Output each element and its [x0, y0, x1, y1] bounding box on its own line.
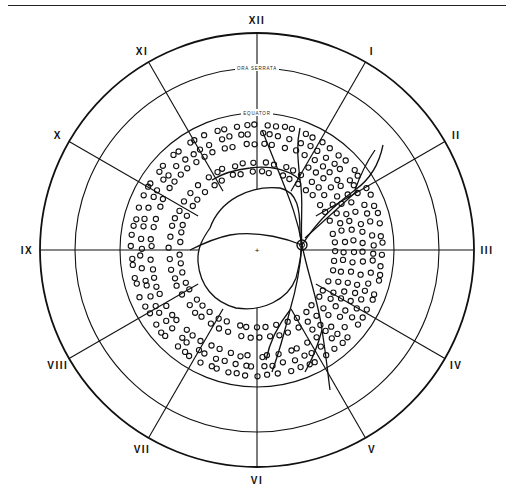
clock-label-iii: III: [481, 245, 494, 256]
clock-label-xi: XI: [136, 46, 148, 57]
clock-label-v: V: [368, 444, 376, 455]
clock-label-iv: IV: [450, 360, 462, 371]
meridian-x: [69, 142, 198, 217]
clock-label-ii: II: [452, 130, 461, 141]
center-mark: +: [255, 246, 260, 255]
equator-label: EQUATOR: [243, 111, 270, 116]
posterior-pole-boundary: [198, 188, 301, 309]
clock-label-viii: VIII: [47, 360, 68, 371]
meridian-i: [291, 62, 366, 191]
clock-label-i: I: [370, 46, 374, 57]
clock-label-xii: XII: [249, 15, 266, 26]
meridian-iv: [316, 284, 445, 359]
clock-label-vi: VI: [251, 475, 263, 486]
clock-label-x: X: [54, 130, 62, 141]
clock-label-ix: IX: [21, 245, 33, 256]
meridian-xi: [149, 62, 224, 191]
meridian-vii: [149, 309, 224, 438]
clock-label-vii: VII: [134, 444, 151, 455]
fundus-chart: ORA SERRATA EQUATOR + XIIIIIIIIIVVVIVIIV…: [0, 0, 511, 494]
ora-serrata-label: ORA SERRATA: [237, 66, 277, 71]
